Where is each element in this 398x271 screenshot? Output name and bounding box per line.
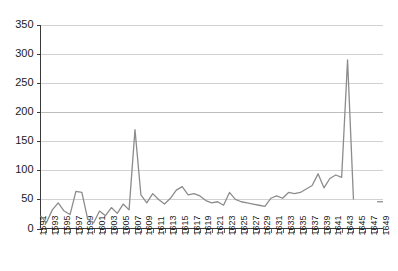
x-tick-label: 1645 bbox=[357, 215, 367, 235]
x-tick-label: 1633 bbox=[286, 215, 296, 235]
x-tick-label: 1605 bbox=[121, 215, 131, 235]
x-tick-label: 1601 bbox=[97, 215, 107, 235]
x-tick-label: 1619 bbox=[203, 215, 213, 235]
x-tick-label: 1609 bbox=[144, 215, 154, 235]
chart-canvas: 050100150200250300350 159115931595159715… bbox=[0, 0, 398, 271]
y-tick-label: 0 bbox=[27, 222, 33, 234]
y-tick-label: 250 bbox=[15, 76, 33, 88]
x-tick-label: 1613 bbox=[168, 215, 178, 235]
x-tick-label: 1629 bbox=[262, 215, 272, 235]
x-tick-label: 1607 bbox=[133, 215, 143, 235]
x-tick-label: 1595 bbox=[62, 215, 72, 235]
x-tick-label: 1637 bbox=[310, 215, 320, 235]
line-chart: 050100150200250300350 159115931595159715… bbox=[0, 0, 398, 271]
x-tick-label: 1623 bbox=[227, 215, 237, 235]
x-tick-label: 1617 bbox=[192, 215, 202, 235]
y-tick-label: 100 bbox=[15, 163, 33, 175]
y-tick-label: 300 bbox=[15, 47, 33, 59]
y-tick-label: 350 bbox=[15, 18, 33, 30]
x-tick-label: 1597 bbox=[74, 215, 84, 235]
x-tick-label: 1635 bbox=[298, 215, 308, 235]
y-tick-label: 150 bbox=[15, 134, 33, 146]
x-tick-label: 1627 bbox=[251, 215, 261, 235]
y-tick-label: 200 bbox=[15, 105, 33, 117]
x-tick-label: 1621 bbox=[215, 215, 225, 235]
x-tick-label: 1639 bbox=[322, 215, 332, 235]
x-tick-label: 1631 bbox=[274, 215, 284, 235]
x-tick-label: 1611 bbox=[156, 216, 166, 235]
x-tick-label: 1647 bbox=[369, 215, 379, 235]
x-tick-label: 1615 bbox=[180, 215, 190, 235]
x-tick-label: 1625 bbox=[239, 215, 249, 235]
x-tick-label: 1599 bbox=[85, 215, 95, 235]
x-tick-labels: 1591159315951597159916011603160516071609… bbox=[38, 215, 391, 235]
x-tick-label: 1643 bbox=[345, 215, 355, 235]
x-tick-label: 1593 bbox=[50, 215, 60, 235]
x-tick-label: 1641 bbox=[333, 215, 343, 235]
x-tick-label: 1649 bbox=[381, 215, 391, 235]
x-tick-label: 1603 bbox=[109, 215, 119, 235]
y-tick-label: 50 bbox=[21, 192, 33, 204]
